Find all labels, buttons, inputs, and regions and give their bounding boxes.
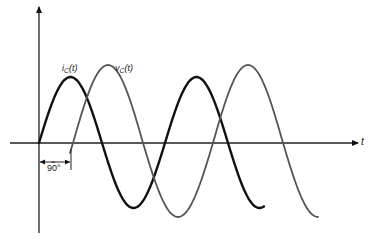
vc-label: vC(t) (115, 64, 133, 74)
capacitor-phase-diagram (0, 0, 374, 241)
voltage-waveform-vc (70, 65, 318, 217)
phase-shift-label: 90° (47, 164, 61, 173)
ic-label: iC(t) (62, 64, 78, 74)
time-axis-label: t (361, 137, 364, 147)
